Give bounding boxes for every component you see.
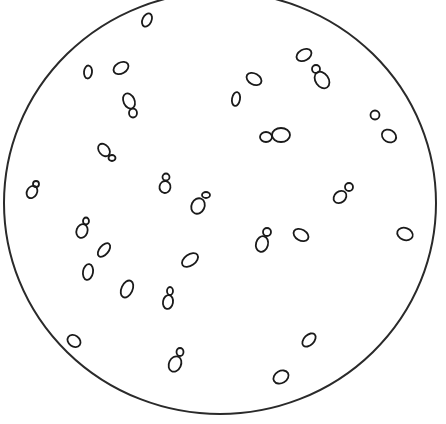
budding-yeast-cell bbox=[74, 218, 89, 240]
bud-cell bbox=[263, 228, 271, 236]
yeast-cell bbox=[111, 59, 130, 77]
mother-cell bbox=[231, 91, 241, 106]
mother-cell bbox=[294, 46, 313, 64]
yeast-cell bbox=[371, 111, 380, 120]
bud-cell bbox=[129, 109, 137, 118]
bud-cell bbox=[260, 132, 272, 142]
budding-yeast-cell bbox=[166, 348, 184, 374]
mother-cell bbox=[179, 250, 200, 269]
bud-cell bbox=[345, 183, 353, 191]
bud-cell bbox=[109, 155, 116, 161]
mother-cell bbox=[371, 111, 380, 120]
yeast-cell bbox=[65, 332, 83, 349]
mother-cell bbox=[300, 331, 318, 349]
budding-yeast-cell bbox=[331, 183, 353, 206]
mother-cell bbox=[121, 91, 138, 110]
mother-cell bbox=[162, 294, 174, 310]
yeast-cell bbox=[82, 263, 95, 280]
field-of-view-circle bbox=[4, 0, 436, 414]
mother-cell bbox=[65, 332, 83, 349]
budding-yeast-cell bbox=[96, 141, 116, 161]
bud-cell bbox=[167, 287, 173, 295]
mother-cell bbox=[272, 128, 290, 142]
bud-cell bbox=[163, 174, 170, 181]
mother-cell bbox=[95, 241, 112, 259]
mother-cell bbox=[244, 70, 263, 88]
mother-cell bbox=[380, 127, 399, 145]
yeast-cell bbox=[380, 127, 399, 145]
mother-cell bbox=[83, 65, 92, 79]
cells-layer bbox=[24, 12, 414, 386]
yeast-cell bbox=[118, 279, 136, 300]
yeast-cell bbox=[291, 226, 310, 244]
yeast-cell bbox=[300, 331, 318, 349]
yeast-cell bbox=[294, 46, 313, 64]
mother-cell bbox=[82, 263, 95, 280]
yeast-cell bbox=[231, 91, 241, 106]
mother-cell bbox=[271, 368, 291, 386]
budding-yeast-cell bbox=[121, 91, 138, 117]
budding-yeast-cell bbox=[312, 65, 333, 91]
microscope-field-drawing bbox=[0, 0, 446, 424]
yeast-cell bbox=[140, 12, 154, 28]
mother-cell bbox=[254, 235, 270, 254]
mother-cell bbox=[111, 59, 130, 77]
mother-cell bbox=[140, 12, 154, 28]
budding-yeast-cell bbox=[260, 128, 290, 142]
yeast-cell bbox=[244, 70, 263, 88]
bud-cell bbox=[202, 192, 210, 198]
yeast-cell-illustration bbox=[0, 0, 446, 424]
mother-cell bbox=[166, 354, 184, 374]
budding-yeast-cell bbox=[162, 287, 174, 310]
budding-yeast-cell bbox=[159, 174, 172, 194]
bud-cell bbox=[83, 218, 89, 225]
yeast-cell bbox=[395, 226, 414, 243]
mother-cell bbox=[189, 196, 208, 216]
yeast-cell bbox=[271, 368, 291, 386]
mother-cell bbox=[291, 226, 310, 244]
budding-yeast-cell bbox=[189, 192, 210, 216]
bud-cell bbox=[33, 181, 39, 187]
mother-cell bbox=[395, 226, 414, 243]
yeast-cell bbox=[179, 250, 200, 269]
yeast-cell bbox=[83, 65, 92, 79]
budding-yeast-cell bbox=[24, 181, 39, 200]
budding-yeast-cell bbox=[254, 228, 271, 253]
mother-cell bbox=[159, 180, 172, 194]
bud-cell bbox=[177, 348, 184, 356]
mother-cell bbox=[118, 279, 136, 300]
yeast-cell bbox=[95, 241, 112, 259]
bud-cell bbox=[312, 65, 320, 73]
